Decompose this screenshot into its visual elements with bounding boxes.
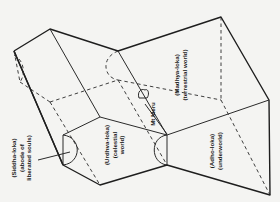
svg-text:(Adho-loka): (Adho-loka)	[208, 134, 215, 168]
madhya-arc	[154, 135, 167, 165]
svg-text:(terrestrial world): (terrestrial world)	[181, 50, 188, 101]
svg-text:(Madhya-loka): (Madhya-loka)	[173, 54, 180, 96]
loka-diagram-svg: (Siddha-loka) (abode of liberated souls)…	[0, 0, 280, 202]
svg-text:(Siddha-loka): (Siddha-loka)	[10, 138, 17, 177]
mt-meru-label: Mt Meru	[149, 102, 156, 126]
svg-text:Mt Meru: Mt Meru	[149, 102, 156, 126]
svg-text:(underworld): (underworld)	[216, 132, 223, 170]
loka-diagram: (Siddha-loka) (abode of liberated souls)…	[0, 0, 280, 202]
svg-text:world): world)	[118, 136, 125, 156]
urdhva-loka-label: (Urdhva-loka) (celestial world)	[103, 125, 125, 165]
siddha-loka-label: (Siddha-loka) (abode of liberated souls)	[10, 135, 32, 181]
siddha-arc	[63, 135, 77, 165]
madhya-loka-label: (Madhya-loka) (terrestrial world)	[173, 50, 188, 101]
svg-text:(Urdhva-loka): (Urdhva-loka)	[103, 125, 110, 165]
solid-edges	[14, 17, 270, 195]
svg-text:(celestial: (celestial	[111, 131, 118, 158]
svg-text:(abode of: (abode of	[18, 143, 25, 172]
svg-text:liberated souls): liberated souls)	[25, 135, 32, 181]
adho-loka-label: (Adho-loka) (underworld)	[208, 132, 223, 170]
